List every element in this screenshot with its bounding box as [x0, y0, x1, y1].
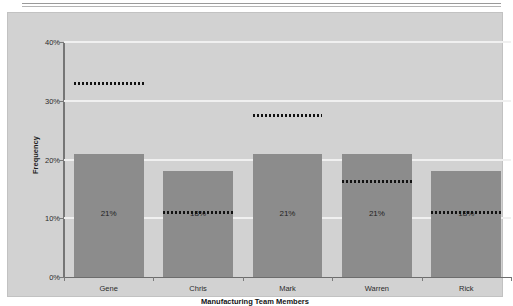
bar-gene[interactable]: 21% [74, 154, 144, 277]
x-tick-mark [243, 277, 244, 281]
header-rule-bottom [22, 6, 501, 7]
bar-chris[interactable]: 18% [163, 171, 233, 277]
y-tick-label-20: 20% [45, 155, 60, 164]
x-tick-mark [422, 277, 423, 281]
bar-rick[interactable]: 18% [431, 171, 501, 277]
bar-mark[interactable]: 21% [253, 154, 323, 277]
x-axis-title: Manufacturing Team Members [8, 297, 502, 306]
x-axis-end-cap [511, 277, 512, 281]
x-label-gene: Gene [64, 284, 153, 293]
x-label-chris: Chris [153, 284, 242, 293]
bar-warren[interactable]: 21% [342, 154, 412, 277]
x-axis-end-cap [64, 277, 65, 281]
gridline [64, 41, 511, 43]
bar-value-label: 21% [342, 209, 412, 218]
y-tick-label-10: 10% [45, 214, 60, 223]
y-tick-label-40: 40% [45, 38, 60, 47]
x-label-mark: Mark [243, 284, 332, 293]
dotted-marker-mark [253, 114, 323, 117]
chart-panel: Frequency 40% 30% 20% 10% 0% 21%18%21%21… [7, 12, 503, 297]
x-label-warren: Warren [332, 284, 421, 293]
dotted-marker-gene [74, 82, 144, 85]
dotted-marker-chris [163, 211, 233, 214]
y-tick-label-30: 30% [45, 96, 60, 105]
x-label-rick: Rick [422, 284, 511, 293]
plot-area: 21%18%21%21%18% [64, 42, 511, 277]
x-tick-mark [332, 277, 333, 281]
bar-value-label: 21% [253, 209, 323, 218]
y-axis-tick-labels: 40% 30% 20% 10% 0% [8, 42, 60, 277]
gridline [64, 100, 511, 102]
header-rule-top [22, 3, 501, 4]
chart-screenshot: Frequency 40% 30% 20% 10% 0% 21%18%21%21… [0, 0, 513, 306]
x-tick-mark [153, 277, 154, 281]
dotted-marker-warren [342, 180, 412, 183]
dotted-marker-rick [431, 211, 501, 214]
bar-value-label: 21% [74, 209, 144, 218]
x-axis-line [63, 277, 512, 278]
